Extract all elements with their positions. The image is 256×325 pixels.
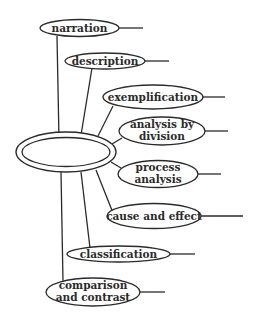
node-exemplification: exemplification	[103, 85, 203, 109]
node-label-line-2: analysis	[134, 173, 181, 185]
edge-analysis-by-division	[112, 138, 122, 144]
mind-map-diagram: narration description exemplification an…	[0, 0, 256, 325]
edge-exemplification	[98, 106, 113, 136]
node-analysis-by-division: analysis by division	[119, 117, 205, 145]
node-label: cause and effect	[106, 210, 202, 222]
node-label-line-1: comparison	[59, 279, 128, 291]
edge-classification	[81, 172, 90, 248]
node-label: narration	[52, 22, 108, 34]
edge-narration	[57, 36, 59, 140]
node-comparison-and-contrast: comparison and contrast	[46, 278, 140, 306]
center-node	[16, 132, 116, 172]
node-label-line-2: and contrast	[56, 291, 131, 303]
node-description: description	[65, 53, 145, 69]
node-narration: narration	[40, 20, 119, 37]
node-label-line-1: process	[136, 161, 181, 173]
node-classification: classification	[67, 246, 170, 262]
node-label-line-2: division	[139, 130, 185, 142]
node-process-analysis: process analysis	[118, 161, 198, 188]
edge-comparison-and-contrast	[61, 172, 63, 282]
node-cause-and-effect: cause and effect	[106, 204, 202, 229]
edge-description	[81, 68, 92, 135]
node-label: description	[72, 55, 139, 67]
edge-cause-and-effect	[96, 170, 113, 213]
node-label: exemplification	[108, 91, 199, 103]
node-label: classification	[80, 248, 158, 260]
edge-process-analysis	[111, 162, 121, 168]
node-label-line-1: analysis by	[130, 118, 195, 130]
